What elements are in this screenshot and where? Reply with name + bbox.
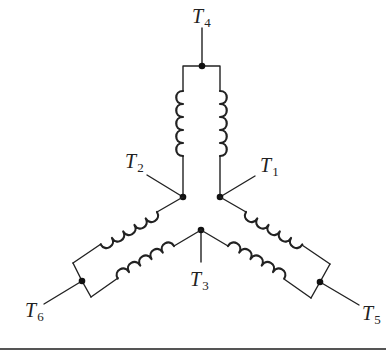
right-upper-tail bbox=[302, 245, 330, 264]
left-branch bbox=[44, 197, 201, 304]
left-lower-wire bbox=[174, 230, 201, 246]
label-t4: T4 bbox=[192, 6, 211, 29]
top-branch bbox=[176, 28, 227, 197]
wye-winding-diagram bbox=[0, 0, 386, 350]
left-upper-tail bbox=[73, 244, 101, 263]
right-upper-coil bbox=[243, 212, 303, 250]
top-left-coil bbox=[176, 91, 183, 156]
label-t3: T3 bbox=[190, 269, 209, 292]
label-t6: T6 bbox=[25, 300, 44, 323]
label-t5: T5 bbox=[362, 303, 381, 326]
t1-lead bbox=[220, 176, 255, 197]
t5-lead bbox=[320, 282, 359, 305]
t4-node bbox=[199, 63, 206, 70]
right-lower-tail bbox=[284, 279, 311, 298]
t2-lead bbox=[147, 175, 183, 197]
left-lower-coil bbox=[114, 240, 174, 278]
right-branch bbox=[201, 197, 359, 305]
t6-lead bbox=[44, 281, 82, 304]
top-right-coil bbox=[220, 91, 227, 156]
t6-node bbox=[79, 278, 86, 285]
label-t2: T2 bbox=[125, 151, 144, 174]
left-upper-coil bbox=[101, 212, 161, 250]
label-t1: T1 bbox=[260, 155, 279, 178]
left-upper-wire bbox=[157, 197, 183, 212]
right-lower-wire bbox=[201, 230, 228, 246]
left-lower-tail bbox=[91, 278, 118, 297]
t5-node bbox=[317, 279, 324, 286]
center-nodes bbox=[147, 175, 255, 262]
top-bus bbox=[183, 66, 220, 91]
right-upper-wire bbox=[220, 197, 246, 212]
right-lower-coil bbox=[228, 240, 288, 278]
